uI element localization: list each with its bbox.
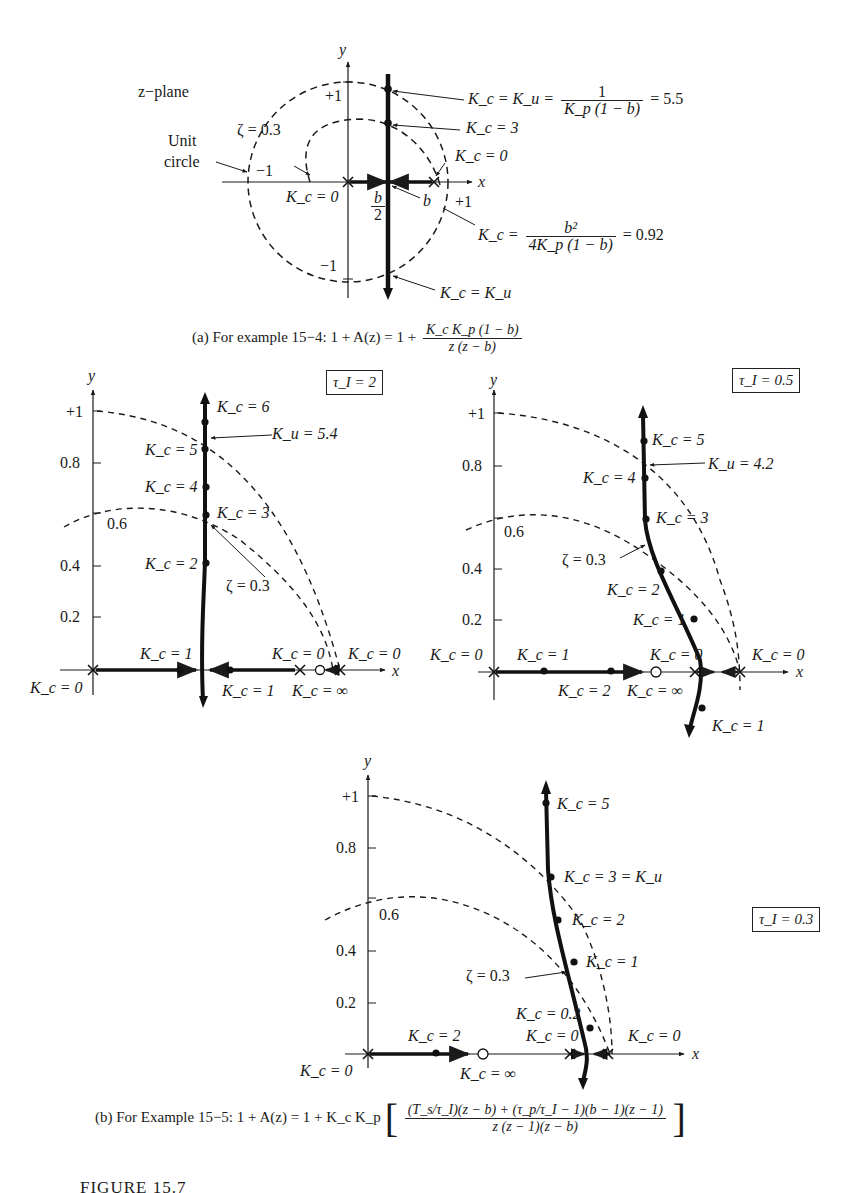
zeta-contour (306, 119, 440, 185)
caption-b: (b) For Example 15−5: 1 + A(z) = 1 + K_c… (95, 1095, 686, 1142)
b2-zeta: ζ = 0.3 (562, 552, 606, 568)
b2-tick-02: 0.2 (462, 612, 482, 628)
z-plane-label: z−plane (138, 84, 189, 100)
kc3-annotation: K_c = 3 (466, 120, 519, 136)
b1-ku54: K_u = 5.4 (272, 426, 337, 442)
zeta-label: ζ = 0.3 (237, 122, 281, 138)
b3-kc3-ku: K_c = 3 = K_u (564, 869, 662, 885)
b3-kc2: K_c = 2 (572, 912, 625, 928)
b3-kc02: K_c = 0.2 (516, 1006, 581, 1022)
b3-tick-02: 0.2 (336, 995, 356, 1011)
b1-tick-08: 0.8 (60, 455, 80, 471)
tau-03-box: τ_I = 0.3 (752, 907, 820, 932)
b1-kc6: K_c = 6 (217, 399, 270, 415)
kc0-right-label: K_c = 0 (455, 148, 508, 164)
b3-y-axis-label: y (364, 753, 371, 769)
b1-tick-04: 0.4 (60, 558, 80, 574)
b2-kc4: K_c = 4 (583, 470, 636, 486)
b3-tick-08: 0.8 (336, 840, 356, 856)
unit-circle-label-1: Unit (168, 133, 196, 149)
b2-tick-06: 0.6 (504, 524, 524, 540)
panel-a-x-axis-label: x (478, 174, 485, 190)
b2-kc1-real: K_c = 1 (517, 647, 570, 663)
caption-a: (a) For example 15−4: 1 + A(z) = 1 + K_c… (192, 322, 525, 355)
ku-annotation: K_c = K_u = 1K_p (1 − b) = 5.5 (468, 84, 683, 117)
tau-2-box: τ_I = 2 (326, 370, 383, 395)
b1-kc3: K_c = 3 (217, 505, 270, 521)
b1-kc4: K_c = 4 (145, 479, 198, 495)
b2-kc1-upper: K_c = 1 (633, 612, 686, 628)
b3-tick-1: +1 (342, 789, 359, 805)
b1-kc-inf: K_c = ∞ (292, 683, 348, 699)
b3-kc0-right: K_c = 0 (628, 1028, 681, 1044)
b3-tick-04: 0.4 (336, 943, 356, 959)
panel-a-y-axis-label: y (339, 42, 346, 58)
b1-kc0-mid: K_c = 0 (272, 646, 325, 662)
b2-kc0-right: K_c = 0 (752, 647, 805, 663)
tau-05-box: τ_I = 0.5 (732, 368, 800, 393)
b3-kc-inf: K_c = ∞ (460, 1066, 516, 1082)
b3-kc1: K_c = 1 (586, 954, 639, 970)
unit-circle-label-2: circle (164, 154, 200, 170)
b2-x-axis-label: x (796, 664, 803, 680)
b2-kc3: K_c = 3 (656, 510, 709, 526)
b1-kc2: K_c = 2 (145, 556, 198, 572)
b3-zeta: ζ = 0.3 (466, 968, 510, 984)
b-label: b (423, 193, 431, 209)
b2-kc0-mid: K_c = 0 (650, 647, 703, 663)
b2-kc1-lower: K_c = 1 (712, 718, 765, 734)
figure-label: FIGURE 15.7 (80, 1178, 186, 1193)
b1-y-axis-label: y (88, 368, 95, 384)
b1-x-axis-label: x (392, 663, 399, 679)
b1-tick-06: 0.6 (107, 516, 127, 532)
b3-kc5: K_c = 5 (557, 796, 610, 812)
b2-tick-04: 0.4 (462, 561, 482, 577)
figure-canvas (0, 0, 850, 1193)
b2-tick-08: 0.8 (462, 458, 482, 474)
b2-kc0-origin: K_c = 0 (430, 647, 483, 663)
b2-kc-inf: K_c = ∞ (627, 683, 683, 699)
b3-kc2-real: K_c = 2 (408, 1028, 461, 1044)
b1-tick-02: 0.2 (60, 609, 80, 625)
b3-kc0-mid: K_c = 0 (526, 1028, 579, 1044)
b3-tick-06: 0.6 (379, 907, 399, 923)
b2-tick-1: +1 (468, 406, 485, 422)
b1-tick-1: +1 (66, 404, 83, 420)
b2-kc5: K_c = 5 (652, 432, 705, 448)
tick-y-pos1: +1 (325, 88, 342, 104)
tick-y-neg1: −1 (320, 258, 337, 274)
kc0-left-label: K_c = 0 (286, 189, 339, 205)
b2-ku42: K_u = 4.2 (708, 456, 773, 472)
b2-kc2-real: K_c = 2 (558, 683, 611, 699)
panel-a-diagram (216, 62, 475, 300)
b2-kc2: K_c = 2 (607, 582, 660, 598)
tick-x-pos1: +1 (455, 194, 472, 210)
b1-kc0-origin: K_c = 0 (30, 680, 83, 696)
ku-bottom-annotation: K_c = K_u (440, 285, 511, 301)
b2-y-axis-label: y (490, 372, 497, 388)
breakaway-annotation: K_c = b²4K_p (1 − b) = 0.92 (478, 220, 664, 253)
b1-kc1-left: K_c = 1 (140, 646, 193, 662)
b1-kc5: K_c = 5 (145, 442, 198, 458)
b-half-label: b2 (368, 190, 388, 223)
b1-kc1-right: K_c = 1 (222, 683, 275, 699)
b3-kc0-origin: K_c = 0 (300, 1063, 353, 1079)
b1-zeta: ζ = 0.3 (226, 578, 270, 594)
b1-kc0-right: K_c = 0 (348, 646, 401, 662)
b3-x-axis-label: x (692, 1046, 699, 1062)
tick-x-neg1: −1 (256, 163, 273, 179)
